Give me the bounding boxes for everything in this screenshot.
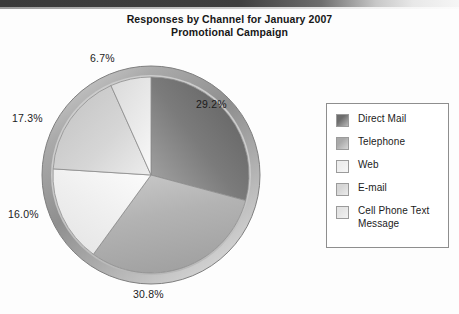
chart-page: Responses by Channel for January 2007 Pr… [0,0,459,314]
legend-item-cell-phone-text-message[interactable]: Cell Phone Text Message [336,205,443,230]
chart-legend: Direct MailTelephoneWebE-mailCell Phone … [326,103,449,248]
legend-item-label: Cell Phone Text Message [358,205,443,230]
chart-title-line-2: Promotional Campaign [0,26,459,39]
pie-label-cell-phone-text: 6.7% [90,52,115,64]
legend-item-list: Direct MailTelephoneWebE-mailCell Phone … [336,113,443,230]
legend-item-web[interactable]: Web [336,159,443,174]
legend-item-e-mail[interactable]: E-mail [336,182,443,197]
chart-title-line-1: Responses by Channel for January 2007 [0,13,459,26]
pie-label-direct-mail: 29.2% [196,98,227,110]
pie-label-email: 17.3% [12,112,43,124]
legend-item-label: Web [358,159,379,172]
legend-item-direct-mail[interactable]: Direct Mail [336,113,443,128]
legend-item-label: Telephone [358,136,405,149]
legend-swatch-icon [336,160,349,173]
scan-artifact-bar-secondary [0,7,459,9]
pie-label-web: 16.0% [8,208,39,220]
pie-chart-area: 6.7% 29.2% 17.3% 16.0% 30.8% [8,50,308,308]
legend-swatch-icon [336,183,349,196]
legend-item-telephone[interactable]: Telephone [336,136,443,151]
pie-chart-graphic [8,50,308,308]
pie-label-telephone: 30.8% [133,288,164,300]
scan-artifact-bar-top [0,0,459,7]
legend-swatch-icon [336,114,349,127]
legend-swatch-icon [336,137,349,150]
chart-title: Responses by Channel for January 2007 Pr… [0,13,459,39]
legend-swatch-icon [336,206,349,219]
legend-item-label: Direct Mail [358,113,406,126]
legend-item-label: E-mail [358,182,387,195]
